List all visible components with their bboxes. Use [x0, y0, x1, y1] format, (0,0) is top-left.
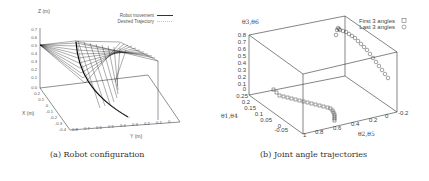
legend: First 3 angles Last 3 angles — [359, 18, 406, 30]
joint-angle-plot: θ3,θ6 First 3 angles Last 3 angles 0.8 — [215, 0, 429, 145]
svg-text:0.5: 0.5 — [108, 124, 114, 129]
svg-text:-0.05: -0.05 — [274, 127, 288, 133]
svg-text:-0.2: -0.2 — [50, 115, 58, 120]
svg-text:0.6: 0.6 — [238, 46, 247, 52]
legend-desired-trajectory: Desired Trajectory — [117, 19, 154, 24]
y-axis: 0.8 0.7 0.6 0.5 0.4 0.3 0.2 0.1 0 Y (m) — [72, 119, 171, 139]
y-axis: 1 0.8 0.6 0.4 0.2 0 -0.2 θ2,θ5 — [303, 110, 409, 138]
figure-robot-configuration: Z (m) Robot movement Desired Trajectory … — [0, 0, 215, 145]
svg-text:0.5: 0.5 — [238, 53, 247, 59]
legend: Robot movement Desired Trajectory — [117, 13, 173, 24]
svg-text:0.6: 0.6 — [31, 35, 37, 40]
svg-text:-0.2: -0.2 — [398, 110, 409, 116]
caption-b: (b) Joint angle trajectories — [260, 150, 367, 159]
svg-text:0.05: 0.05 — [260, 117, 272, 123]
svg-text:0.7: 0.7 — [238, 39, 247, 45]
svg-text:0.1: 0.1 — [38, 97, 44, 102]
figure-joint-angle-trajectories: θ3,θ6 First 3 angles Last 3 angles 0.8 — [215, 0, 429, 145]
svg-text:0.2: 0.2 — [31, 67, 37, 72]
svg-text:0.4: 0.4 — [31, 51, 37, 56]
svg-text:0.4: 0.4 — [351, 121, 360, 127]
svg-text:0.8: 0.8 — [315, 129, 324, 135]
svg-text:0.3: 0.3 — [132, 122, 138, 127]
robot-movement-lines — [40, 41, 158, 108]
svg-text:0.5: 0.5 — [31, 43, 37, 48]
robot-configuration-plot: Z (m) Robot movement Desired Trajectory … — [0, 0, 215, 145]
legend-last-angles: Last 3 angles — [359, 24, 395, 30]
caption-a: (a) Robot configuration — [50, 150, 144, 159]
x-axis: 0.2 0.1 0 -0.1 -0.2 -0.3 -0.4 X (m) — [22, 91, 67, 132]
svg-text:0.6: 0.6 — [333, 125, 342, 131]
y-axis-label: θ2,θ5 — [358, 130, 375, 137]
svg-text:0.6: 0.6 — [96, 125, 102, 130]
svg-text:0.1: 0.1 — [156, 120, 162, 125]
svg-text:0.8: 0.8 — [72, 127, 78, 132]
z-axis-label: θ3,θ6 — [242, 18, 259, 25]
svg-text:0.7: 0.7 — [84, 126, 90, 131]
svg-text:0.2: 0.2 — [34, 91, 40, 96]
svg-text:0: 0 — [168, 119, 171, 124]
svg-text:0.0: 0.0 — [31, 85, 37, 90]
svg-text:-0.1: -0.1 — [46, 109, 54, 114]
svg-text:0.3: 0.3 — [238, 67, 247, 73]
z-axis-label: Z (m) — [38, 8, 50, 14]
x-axis-label: θ1,θ4 — [221, 112, 238, 119]
z-axis: 0.8 0.7 0.6 0.5 0.4 0.3 0.2 0.1 0 — [238, 32, 247, 92]
z-axis: 0.7 0.6 0.5 0.4 0.3 0.2 0.1 0.0 — [31, 27, 40, 90]
series-first-angles — [272, 88, 336, 122]
svg-text:-0.3: -0.3 — [55, 121, 63, 126]
svg-text:0.2: 0.2 — [369, 117, 378, 123]
y-axis-label: Y (m) — [130, 133, 142, 139]
legend-robot-movement: Robot movement — [120, 13, 155, 18]
svg-text:0.4: 0.4 — [238, 60, 247, 66]
svg-text:0: 0 — [46, 103, 49, 108]
svg-text:0.2: 0.2 — [144, 121, 150, 126]
x-axis-label: X (m) — [22, 110, 35, 116]
svg-text:0: 0 — [243, 86, 247, 92]
svg-text:0.1: 0.1 — [31, 75, 37, 80]
svg-text:0.7: 0.7 — [31, 27, 37, 32]
svg-text:0.4: 0.4 — [120, 123, 126, 128]
svg-text:-0.4: -0.4 — [59, 127, 67, 132]
svg-text:0.8: 0.8 — [238, 32, 247, 38]
series-last-angles — [334, 26, 390, 80]
svg-text:0.3: 0.3 — [31, 59, 37, 64]
svg-text:0.2: 0.2 — [238, 74, 247, 80]
